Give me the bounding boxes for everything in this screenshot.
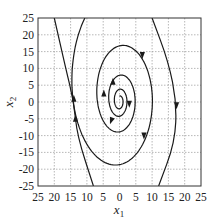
direction-arrow-icon bbox=[174, 102, 179, 109]
y-axis-label-subscript: 2 bbox=[8, 97, 18, 102]
x-tick-label: 20 bbox=[49, 191, 61, 203]
x-axis-label-subscript: 1 bbox=[120, 209, 125, 219]
y-tick-label: -20 bbox=[19, 163, 35, 175]
y-tick-label: 5 bbox=[28, 79, 34, 91]
spiral-trajectory bbox=[72, 8, 152, 165]
direction-arrow-icon bbox=[73, 115, 78, 122]
y-tick-label: 10 bbox=[23, 62, 35, 74]
y-tick-label: 20 bbox=[23, 29, 35, 41]
x-tick-label: 5 bbox=[100, 191, 106, 203]
y-tick-label: -15 bbox=[19, 146, 35, 158]
x-tick-label: 25 bbox=[195, 191, 207, 203]
x-tick-label: 10 bbox=[81, 191, 93, 203]
phase-portrait-chart: 2520151050510152025 2520151050-5-10-15-2… bbox=[0, 0, 219, 224]
y-axis-ticks: 2520151050-5-10-15-20-25 bbox=[19, 12, 35, 192]
y-tick-label: -10 bbox=[19, 130, 35, 142]
y-tick-label: 15 bbox=[23, 46, 35, 58]
y-axis-label: x2 bbox=[1, 97, 18, 108]
y-tick-label: 25 bbox=[23, 12, 35, 24]
x-tick-label: 20 bbox=[179, 191, 191, 203]
y-tick-label: -5 bbox=[24, 113, 34, 125]
y-tick-label: 0 bbox=[28, 96, 34, 108]
x-tick-label: 15 bbox=[65, 191, 77, 203]
trajectory bbox=[54, 8, 176, 186]
direction-arrow-icon bbox=[101, 90, 106, 97]
direction-arrows bbox=[71, 52, 179, 140]
x-tick-label: 5 bbox=[133, 191, 139, 203]
y-tick-label: -25 bbox=[19, 180, 35, 192]
x-tick-label: 15 bbox=[163, 191, 175, 203]
x-axis-label: x1 bbox=[113, 202, 124, 219]
grid-lines bbox=[38, 18, 201, 186]
direction-arrow-icon bbox=[108, 117, 115, 125]
x-tick-label: 10 bbox=[146, 191, 158, 203]
direction-arrow-icon bbox=[127, 101, 132, 108]
x-tick-label: 25 bbox=[32, 191, 44, 203]
